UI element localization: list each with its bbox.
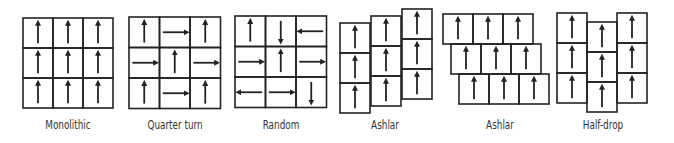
ashlar-vertical-pattern <box>340 9 432 113</box>
label-monolithic: Monolithic <box>45 118 90 132</box>
monolithic-pattern <box>23 18 113 108</box>
label-ashlar-vertical: Ashlar <box>371 118 399 132</box>
label-ashlar-horizontal: Ashlar <box>486 118 514 132</box>
label-quarter-turn: Quarter turn <box>147 118 202 132</box>
label-random: Random <box>263 118 300 132</box>
random-pattern <box>235 16 327 108</box>
label-half-drop: Half-drop <box>583 118 623 132</box>
half-drop-pattern <box>557 13 647 112</box>
tile-pattern-diagram <box>0 0 674 143</box>
quarter-turn-pattern <box>129 17 221 109</box>
ashlar-horizontal-pattern <box>443 14 549 104</box>
